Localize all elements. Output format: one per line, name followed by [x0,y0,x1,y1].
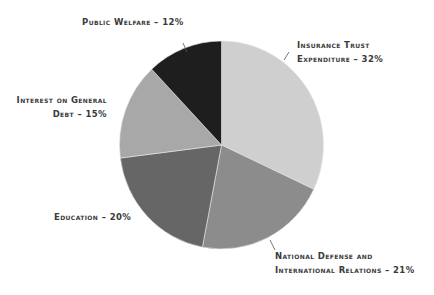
label-education: Education – 20% [54,210,131,224]
label-interest-line2: Debt – 15% [53,107,107,121]
label-defense-line2: International Relations – 21% [275,263,415,277]
leader-line-insurance [284,52,289,60]
label-insurance-line2: Expenditure – 32% [297,52,383,66]
label-interest-line1: Interest on General [17,93,107,107]
label-public-welfare: Public Welfare – 12% [82,15,184,29]
label-defense-line1: National Defense and [275,249,373,263]
pie-slices [120,41,324,249]
label-insurance-line1: Insurance Trust [297,38,370,52]
